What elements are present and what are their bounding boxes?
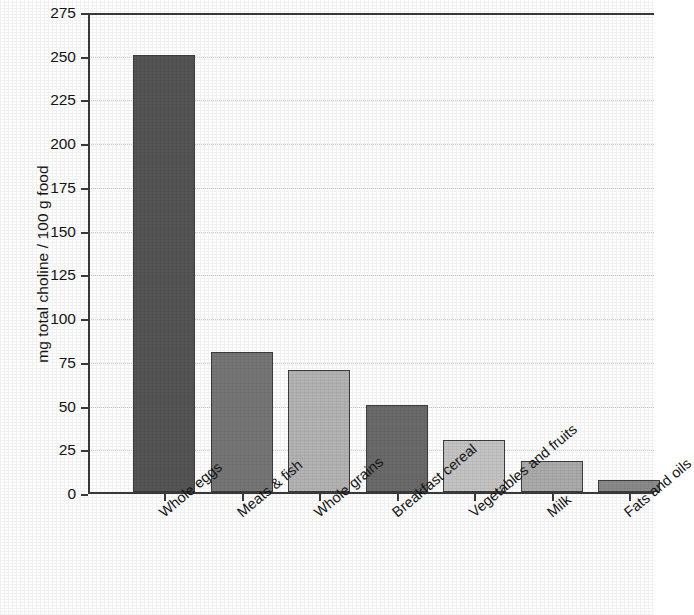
y-axis-tick [81,275,88,277]
y-axis-line [88,13,90,494]
y-axis-tick [81,188,88,190]
y-axis-title: mg total choline / 100 g food [34,124,52,404]
y-axis-tick-label: 75 [59,354,76,372]
bar [133,55,195,492]
y-axis-tick-label: 0 [67,485,76,503]
y-axis-tick [81,407,88,409]
y-axis-tick-label: 50 [59,398,76,416]
y-axis-tick [81,232,88,234]
y-axis-tick-label: 100 [50,310,76,328]
y-axis-tick-label: 200 [50,135,76,153]
bar [366,405,428,492]
y-axis-tick-label: 125 [50,266,76,284]
y-axis-tick [81,363,88,365]
y-axis-tick [81,450,88,452]
y-axis-tick [81,57,88,59]
y-axis-tick [81,144,88,146]
y-axis-tick [81,100,88,102]
y-axis-tick [81,494,88,496]
x-axis-label: Milk [544,491,574,520]
y-axis-tick-label: 150 [50,223,76,241]
plot-top-border [88,13,654,15]
y-axis-tick-label: 175 [50,179,76,197]
y-axis-tick-label: 275 [50,4,76,22]
y-axis-tick [81,13,88,15]
y-axis-tick [81,319,88,321]
y-axis-tick-label: 225 [50,91,76,109]
y-axis-tick-label: 250 [50,48,76,66]
y-axis-tick-label: 25 [59,441,76,459]
